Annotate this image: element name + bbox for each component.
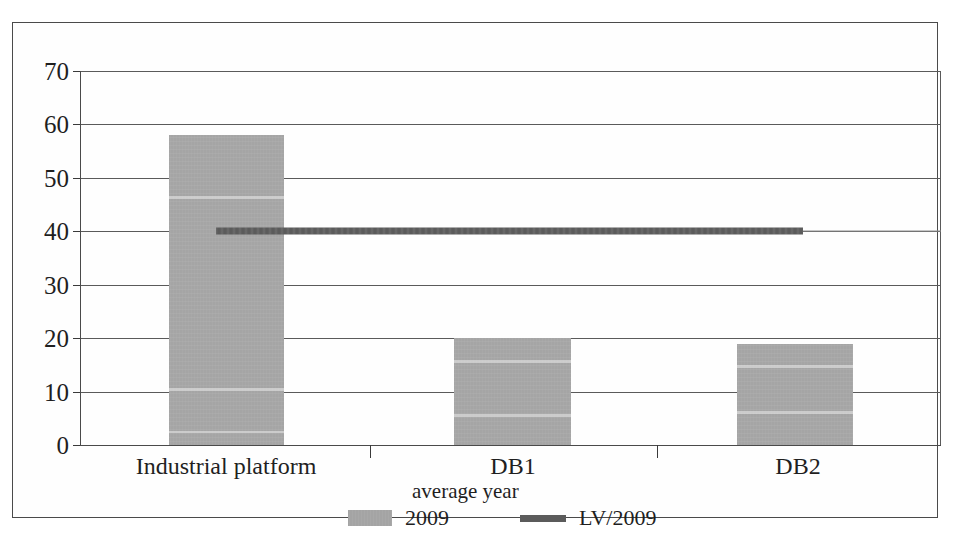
scan-band xyxy=(454,360,571,363)
legend-entry-lv-2009[interactable]: LV/2009 xyxy=(520,507,656,529)
y-axis-label-30: 30 xyxy=(44,272,69,297)
y-tick-20 xyxy=(73,338,80,339)
y-axis-label-0: 0 xyxy=(57,433,70,458)
bar-db1[interactable] xyxy=(454,338,571,445)
gridline-60 xyxy=(80,124,941,125)
scan-band xyxy=(169,196,284,199)
y-tick-30 xyxy=(73,285,80,286)
x-axis-label-db1: DB1 xyxy=(490,454,535,478)
line-swatch-icon xyxy=(520,515,566,522)
y-axis-label-60: 60 xyxy=(44,112,69,137)
figure-frame: 70 60 50 40 30 20 10 0 xyxy=(12,22,938,518)
lv-reference-line[interactable] xyxy=(216,228,803,235)
legend-label-2009: 2009 xyxy=(405,507,449,529)
plot-right-edge xyxy=(940,71,941,445)
legend-title: average year xyxy=(412,481,519,502)
bar-swatch-icon xyxy=(348,510,392,526)
scan-band xyxy=(737,411,853,414)
scan-band xyxy=(169,388,284,391)
y-axis-label-70: 70 xyxy=(44,59,69,84)
bar-db2[interactable] xyxy=(737,344,853,446)
bar-industrial-platform[interactable] xyxy=(169,135,284,445)
x-axis-label-db2: DB2 xyxy=(775,454,820,478)
plot-area: 70 60 50 40 30 20 10 0 xyxy=(80,71,941,445)
scan-band xyxy=(737,365,853,368)
legend-entry-2009[interactable]: 2009 xyxy=(348,507,449,529)
lv-reference-line-tail xyxy=(803,231,941,232)
y-tick-50 xyxy=(73,178,80,179)
y-tick-0 xyxy=(73,445,80,446)
x-axis-label-industrial-platform: Industrial platform xyxy=(136,454,317,478)
y-tick-60 xyxy=(73,124,80,125)
y-axis-label-10: 10 xyxy=(44,379,69,404)
y-axis-line xyxy=(80,71,81,445)
x-axis-line xyxy=(80,445,941,446)
scan-band xyxy=(454,414,571,417)
chart-legend: average year 2009 LV/2009 xyxy=(80,481,927,533)
scan-band xyxy=(169,431,284,433)
gridline-70 xyxy=(80,71,941,72)
y-axis-label-50: 50 xyxy=(44,165,69,190)
y-axis-label-40: 40 xyxy=(44,219,69,244)
y-tick-70 xyxy=(73,71,80,72)
legend-label-lv-2009: LV/2009 xyxy=(579,507,656,529)
y-axis-label-20: 20 xyxy=(44,326,69,351)
y-tick-40 xyxy=(73,231,80,232)
y-tick-10 xyxy=(73,392,80,393)
x-tick-boundary-1 xyxy=(370,445,371,458)
x-tick-boundary-2 xyxy=(657,445,658,458)
